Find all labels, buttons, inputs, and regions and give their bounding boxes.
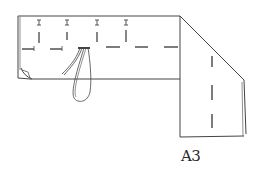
corner-curl [21,68,32,79]
main-strip [18,16,180,137]
vertical-marks [37,20,128,43]
thread-loop [62,48,91,101]
folded-flap [180,16,246,137]
figure-label: A3 [181,147,200,165]
horizontal-stitch-line [22,47,178,49]
diagram-figure [0,0,256,175]
